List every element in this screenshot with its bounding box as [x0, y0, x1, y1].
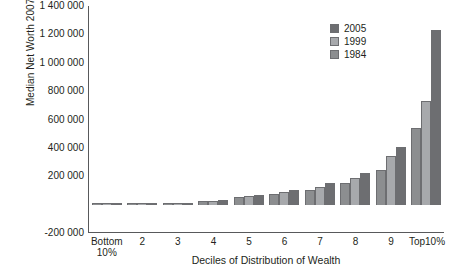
bar-group [89, 6, 125, 205]
legend-swatch-icon [330, 24, 339, 33]
bar-1999 [350, 178, 360, 205]
bar-2005 [396, 147, 406, 204]
legend-item-2005: 2005 [330, 22, 366, 35]
bar-1999 [208, 201, 218, 205]
bar-2005 [218, 200, 228, 205]
legend-item-1984: 1984 [330, 48, 366, 61]
bar-1999 [244, 196, 254, 205]
bar-2005 [183, 203, 193, 204]
bar-1999 [279, 192, 289, 205]
bar-2005 [360, 173, 370, 205]
legend-label: 1984 [344, 48, 366, 61]
bar-2005 [147, 203, 157, 204]
y-axis-tick-label: 1 000 000 [10, 58, 84, 68]
y-axis-tick-labels: 1 400 0001 200 0001 000 000800 000600 00… [8, 0, 84, 269]
bar-1999 [173, 203, 183, 204]
bar-2005 [431, 30, 441, 205]
plot-area [88, 6, 444, 233]
bar-1984 [340, 183, 350, 205]
legend-swatch-icon [330, 37, 339, 46]
bar-chart: Median Net Worth 2007$ 1 400 0001 200 00… [0, 0, 451, 269]
legend: 200519991984 [330, 22, 366, 61]
y-axis-tick-label: 1 200 000 [10, 29, 84, 39]
bar-1999 [102, 203, 112, 204]
x-axis-title: Deciles of Distribution of Wealth [88, 254, 444, 266]
bar-group [196, 6, 232, 205]
bar-1999 [315, 187, 325, 205]
y-axis-tick-label: 1 400 000 [10, 1, 84, 11]
legend-swatch-icon [330, 50, 339, 59]
bar-1984 [92, 203, 102, 204]
bar-1984 [411, 128, 421, 205]
x-axis-line [88, 232, 444, 233]
bar-1999 [137, 203, 147, 204]
y-axis-tick-label: 200 000 [10, 171, 84, 181]
legend-item-1999: 1999 [330, 35, 366, 48]
bar-group [125, 6, 161, 205]
bar-1999 [386, 156, 396, 204]
bar-group [409, 6, 445, 205]
bar-groups [89, 6, 444, 205]
legend-label: 2005 [344, 22, 366, 35]
bar-group [160, 6, 196, 205]
legend-label: 1999 [344, 35, 366, 48]
bar-1984 [234, 197, 244, 204]
bar-1984 [269, 194, 279, 205]
bar-2005 [289, 190, 299, 205]
bar-group [231, 6, 267, 205]
y-axis-tick-label: 800 000 [10, 86, 84, 96]
bar-1984 [305, 190, 315, 205]
bar-1999 [421, 101, 431, 205]
bar-1984 [127, 203, 137, 204]
bar-2005 [325, 183, 335, 205]
bar-2005 [254, 195, 264, 205]
bar-1984 [198, 201, 208, 205]
bar-2005 [112, 203, 122, 204]
bar-1984 [376, 170, 386, 205]
bar-group [267, 6, 303, 205]
y-axis-tick-label: -200 000 [10, 228, 84, 238]
bar-group [373, 6, 409, 205]
y-axis-tick-label: 600 000 [10, 115, 84, 125]
bar-1984 [163, 203, 173, 204]
y-axis-tick-label: 400 000 [10, 143, 84, 153]
